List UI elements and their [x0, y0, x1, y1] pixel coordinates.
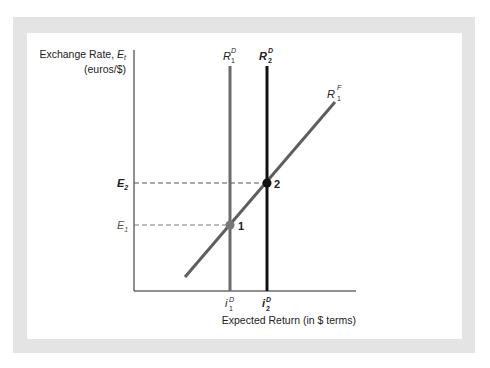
- point-1-label: 1: [238, 220, 244, 232]
- svg-text:D: D: [231, 47, 236, 54]
- exchange-rate-diagram: 1 2 Exchange Rate, Et (euros/$) E2 E1 R …: [0, 0, 490, 368]
- svg-text:R: R: [327, 88, 335, 100]
- svg-text:D: D: [268, 47, 273, 54]
- point-2-label: 2: [274, 178, 280, 190]
- svg-text:1: 1: [337, 95, 341, 102]
- x-axis-label: Expected Return (in $ terms): [222, 314, 356, 326]
- i2d-tick-label: i D 2: [262, 296, 271, 312]
- equilibrium-point-2: [263, 179, 272, 188]
- e2-tick-label: E2: [117, 177, 128, 191]
- svg-text:1: 1: [231, 57, 235, 64]
- svg-text:i: i: [225, 297, 228, 309]
- svg-text:D: D: [266, 296, 271, 303]
- equilibrium-point-1: [226, 221, 235, 230]
- svg-text:D: D: [229, 296, 234, 303]
- r1f-label: R F 1: [327, 84, 342, 102]
- svg-text:2: 2: [268, 57, 272, 64]
- y-axis-units: (euros/$): [84, 63, 126, 75]
- i1d-tick-label: i D 1: [225, 296, 234, 312]
- e1-tick-label: E1: [117, 219, 128, 233]
- svg-text:2: 2: [266, 305, 270, 312]
- svg-text:R: R: [259, 50, 267, 62]
- r2d-label: R D 2: [259, 47, 273, 64]
- svg-text:1: 1: [229, 305, 233, 312]
- y-axis-label: Exchange Rate, Et: [39, 48, 127, 61]
- svg-text:F: F: [337, 84, 342, 91]
- r1d-label: R D 1: [223, 47, 236, 64]
- r1f-curve: [185, 102, 335, 277]
- svg-text:R: R: [223, 50, 231, 62]
